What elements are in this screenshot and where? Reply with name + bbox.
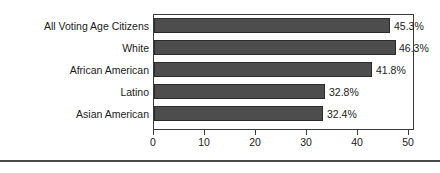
bar-chart-figure: All Voting Age Citizens 45.3% White 46.3… — [0, 0, 440, 173]
bar — [154, 40, 396, 55]
x-axis-tick-label: 30 — [300, 137, 312, 148]
category-label: All Voting Age Citizens — [44, 20, 149, 31]
bottom-divider-rule — [0, 160, 440, 162]
chart-row: White 46.3% — [0, 40, 440, 55]
category-label: White — [122, 42, 149, 53]
x-axis-tick — [153, 130, 154, 135]
chart-row: African American 41.8% — [0, 62, 440, 77]
bar-value-label: 32.8% — [329, 86, 359, 97]
chart-row: Latino 32.8% — [0, 84, 440, 99]
chart-row: Asian American 32.4% — [0, 106, 440, 121]
bar — [154, 18, 390, 33]
x-axis-tick — [408, 130, 409, 135]
x-axis-tick-label: 50 — [402, 137, 414, 148]
x-axis-tick — [255, 130, 256, 135]
category-label: Asian American — [76, 108, 149, 119]
bar-value-label: 32.4% — [327, 108, 357, 119]
x-axis-tick-label: 10 — [198, 137, 210, 148]
chart-row: All Voting Age Citizens 45.3% — [0, 18, 440, 33]
bar — [154, 62, 372, 77]
x-axis-tick-label: 40 — [351, 137, 363, 148]
bar-rows: All Voting Age Citizens 45.3% White 46.3… — [0, 14, 440, 130]
bar — [154, 84, 325, 99]
category-label: Latino — [120, 86, 149, 97]
x-axis: 0 10 20 30 40 50 — [153, 130, 414, 156]
x-axis-tick-label: 0 — [150, 137, 156, 148]
bar-value-label: 45.3% — [394, 20, 424, 31]
x-axis-tick — [204, 130, 205, 135]
bar — [154, 106, 323, 121]
bar-value-label: 41.8% — [376, 64, 406, 75]
x-axis-tick — [306, 130, 307, 135]
x-axis-tick — [357, 130, 358, 135]
bar-value-label: 46.3% — [399, 42, 429, 53]
x-axis-tick-label: 20 — [249, 137, 261, 148]
category-label: African American — [70, 64, 149, 75]
